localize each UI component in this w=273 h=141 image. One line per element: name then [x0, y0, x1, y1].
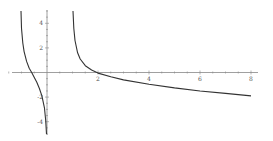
- y-tick-label: 2: [39, 44, 43, 51]
- plot-area: 2468-4-224: [0, 0, 273, 141]
- x-tick-label: 8: [249, 75, 253, 82]
- x-tick-label: 2: [96, 75, 100, 82]
- y-tick-label: 4: [39, 19, 43, 26]
- axes: 2468-4-224: [9, 10, 258, 135]
- x-tick-label: 4: [147, 75, 151, 82]
- y-tick-label: -4: [37, 118, 43, 125]
- right-branch-curve: [73, 11, 251, 96]
- x-tick-label: 6: [198, 75, 202, 82]
